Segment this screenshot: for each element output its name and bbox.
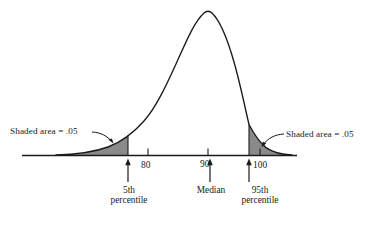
figure-container: Shaded area = .05 Shaded area = .05 80 9…	[0, 0, 384, 225]
axis-tick-label-80: 80	[141, 160, 150, 170]
marker-caption-p95: 95th percentile	[232, 185, 288, 205]
marker-caption-p95-line1: 95th	[232, 185, 288, 195]
shaded-area-label-right: Shaded area = .05	[286, 130, 354, 140]
axis-tick-label-100: 100	[253, 160, 267, 170]
marker-caption-median: Median	[185, 185, 237, 195]
leader-line-left	[92, 132, 114, 144]
marker-caption-p95-line2: percentile	[232, 195, 288, 205]
density-curve	[56, 11, 292, 155]
marker-arrow-p95	[246, 159, 252, 183]
marker-caption-median-line1: Median	[185, 185, 237, 195]
marker-caption-p5: 5th percentile	[101, 185, 157, 205]
shaded-area-label-left: Shaded area = .05	[10, 127, 78, 137]
marker-caption-p5-line1: 5th	[101, 185, 157, 195]
marker-arrow-p5	[125, 159, 131, 183]
leader-line-right	[262, 134, 284, 147]
axis-tick-label-90: 90	[200, 159, 209, 169]
marker-caption-p5-line2: percentile	[101, 195, 157, 205]
